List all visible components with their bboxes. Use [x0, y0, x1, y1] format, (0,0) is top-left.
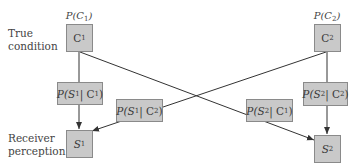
receiver-perception-label: Receiverperception — [8, 132, 65, 158]
node-c1: C1 — [66, 24, 93, 52]
prior-c1-label: P(C1) — [59, 10, 99, 23]
edge-label-p-s2-given-c2: P(S2 | C2) — [303, 82, 348, 106]
node-c2: C2 — [314, 24, 341, 52]
node-s2: S2 — [314, 135, 341, 163]
edge-label-p-s1-given-c2: P(S1 | C2) — [116, 99, 163, 122]
node-s1: S1 — [66, 130, 93, 158]
true-condition-label: Truecondition — [8, 27, 58, 53]
edge-label-p-s1-given-c1: P(S1 | C1) — [57, 82, 103, 105]
edge-label-p-s2-given-c1: P(S2 | C1) — [246, 99, 293, 122]
prior-c2-label: P(C2) — [307, 10, 347, 23]
